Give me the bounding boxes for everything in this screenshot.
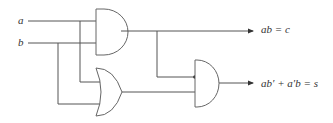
and-gate-1 <box>96 9 128 55</box>
output-label-s: ab′ + a′b = s <box>261 77 318 89</box>
input-label-a: a <box>18 14 24 26</box>
half-adder-circuit: a b ab = c ab′ + a′b = s <box>0 0 333 123</box>
wire-and1-to-and2 <box>157 31 195 77</box>
output-label-c: ab = c <box>261 23 290 35</box>
and-gate-2 <box>195 60 219 107</box>
input-label-b: b <box>18 36 24 48</box>
or-gate <box>96 68 122 116</box>
